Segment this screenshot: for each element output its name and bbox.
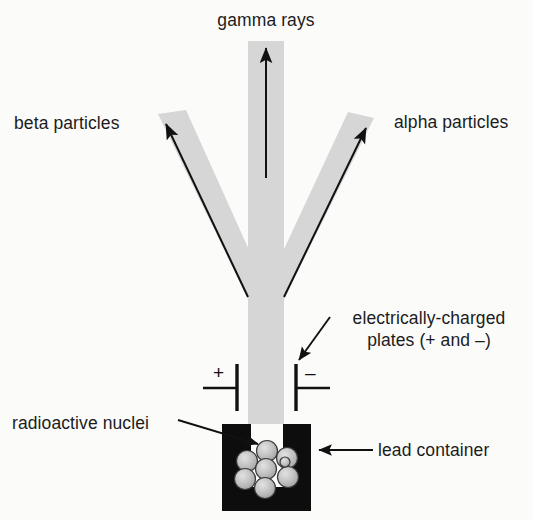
nucleus: [278, 467, 299, 488]
nucleus: [280, 457, 290, 467]
label-gamma-rays: gamma rays: [196, 9, 336, 31]
label-charged-plates-line2: plates (+ and –): [331, 329, 527, 351]
plate-sign-positive: +: [213, 362, 224, 384]
plates-callout: [299, 317, 330, 360]
label-beta-particles: beta particles: [14, 112, 120, 134]
label-charged-plates: electrically-charged plates (+ and –): [331, 307, 527, 352]
nucleus: [256, 459, 277, 480]
beta-arrow: [166, 124, 248, 297]
label-radioactive-nuclei: radioactive nuclei: [12, 412, 149, 434]
nucleus: [255, 478, 276, 499]
plate-sign-negative: –: [305, 362, 316, 384]
radioactive-decay-diagram: gamma rays beta particles alpha particle…: [0, 0, 533, 520]
nucleus: [235, 469, 256, 490]
label-alpha-particles: alpha particles: [394, 111, 508, 133]
label-charged-plates-line1: electrically-charged: [331, 307, 527, 329]
beam-trunk: [248, 300, 284, 424]
label-lead-container: lead container: [378, 439, 489, 461]
alpha-arrow: [284, 128, 366, 297]
